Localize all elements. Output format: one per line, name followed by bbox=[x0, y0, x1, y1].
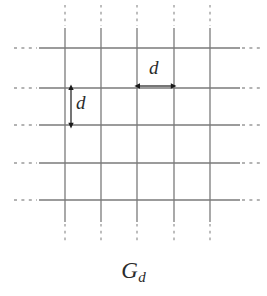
caption-subscript-letter: d bbox=[138, 269, 146, 285]
vertical-spacing-label: d bbox=[76, 93, 86, 112]
caption-base-letter: G bbox=[121, 258, 138, 283]
grid-diagram bbox=[0, 0, 267, 296]
figure-caption: Gd bbox=[0, 258, 267, 286]
grid-figure: d d Gd bbox=[0, 0, 267, 296]
horizontal-spacing-label: d bbox=[149, 58, 159, 77]
figure-background bbox=[0, 0, 267, 296]
